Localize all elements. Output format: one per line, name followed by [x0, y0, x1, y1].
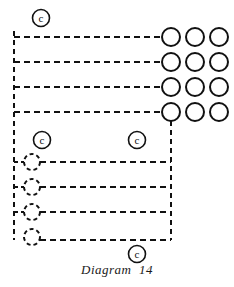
marker-bottom: c	[129, 246, 146, 263]
marker-mid-left: c	[34, 132, 51, 149]
solid-circle-r1c3	[210, 28, 228, 46]
marker-mid-right-glyph: c	[135, 134, 140, 146]
marker-top-left: c	[33, 10, 50, 27]
solid-circle-r4c1	[162, 103, 180, 121]
solid-circle-r1c1	[162, 28, 180, 46]
dashed-circle-2	[24, 179, 40, 195]
solid-circle-r3c3	[210, 78, 228, 96]
solid-circle-r2c3	[210, 53, 228, 71]
dashed-circle-3	[24, 204, 40, 220]
solid-circle-r1c2	[186, 28, 204, 46]
solid-circle-r4c2	[186, 103, 204, 121]
figure-caption: Diagram 14	[0, 262, 234, 278]
marker-mid-left-glyph: c	[40, 134, 45, 146]
solid-circle-r3c2	[186, 78, 204, 96]
dashed-circle-1	[24, 154, 40, 170]
diagram-figure: c c c c Diagram 14	[0, 0, 234, 287]
marker-bottom-glyph: c	[135, 248, 140, 260]
solid-circle-r3c1	[162, 78, 180, 96]
diagram-canvas: c c c c	[0, 0, 234, 287]
marker-top-left-glyph: c	[39, 12, 44, 24]
solid-circle-r2c1	[162, 53, 180, 71]
solid-circle-r2c2	[186, 53, 204, 71]
marker-mid-right: c	[129, 132, 146, 149]
solid-circle-r4c3	[210, 103, 228, 121]
dashed-circle-4	[24, 229, 40, 245]
